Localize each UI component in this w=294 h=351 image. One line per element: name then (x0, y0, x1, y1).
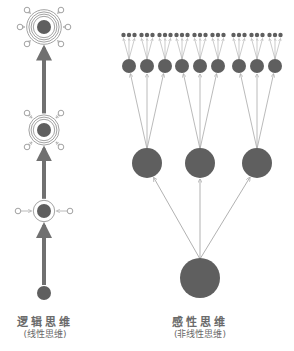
leaf-node (168, 33, 172, 37)
node-circle (37, 123, 51, 137)
leaf-node (273, 33, 277, 37)
leaf-arrow (275, 39, 281, 59)
leaf-arrow (124, 39, 130, 59)
leaf-arrow (234, 39, 240, 59)
mid-node (132, 148, 162, 178)
leaf-arrow (165, 39, 171, 59)
root-node (180, 258, 220, 298)
small-node (175, 59, 189, 73)
input-node (24, 7, 30, 13)
leaf-node (157, 33, 161, 37)
leaf-arrow (213, 39, 219, 59)
leaf-node (198, 33, 202, 37)
small-node (232, 59, 246, 73)
node-circle (37, 286, 51, 300)
linear-node (37, 286, 51, 300)
nonlinear-thinking-diagram (121, 33, 282, 298)
leaf-arrow (177, 39, 183, 59)
branch-arrow (240, 74, 257, 149)
input-node (58, 110, 64, 116)
input-arrow (29, 142, 32, 145)
input-node (17, 24, 23, 30)
input-node (67, 208, 73, 214)
small-node (158, 59, 172, 73)
leaf-node (249, 33, 253, 37)
input-arrow (29, 115, 32, 118)
leaf-node (150, 33, 154, 37)
leaf-arrow (129, 39, 135, 59)
input-arrow (29, 41, 30, 42)
small-node (193, 59, 207, 73)
branch-arrow (154, 178, 200, 259)
linear-node (15, 200, 73, 221)
linear-thinking-diagram (15, 7, 73, 300)
branch-arrow (147, 74, 164, 149)
leaf-node (237, 33, 241, 37)
leaf-node (139, 33, 143, 37)
leaf-node (132, 33, 136, 37)
leaf-arrow (252, 39, 258, 59)
leaf-node (216, 33, 220, 37)
leaf-arrow (218, 39, 224, 59)
leaf-node (203, 33, 207, 37)
input-arrow (58, 12, 59, 13)
linear-node (24, 110, 64, 150)
leaf-arrow (195, 39, 201, 59)
leaf-node (174, 33, 178, 37)
linear-thinking-subtitle: (线性思维) (4, 327, 86, 340)
leaf-arrow (142, 39, 148, 59)
leaf-arrow (200, 39, 206, 59)
input-node (65, 24, 71, 30)
leaf-node (210, 33, 214, 37)
input-arrow (56, 115, 59, 118)
leaf-node (163, 33, 167, 37)
leaf-node (267, 33, 271, 37)
mid-node (242, 148, 272, 178)
small-node (122, 59, 136, 73)
nonlinear-thinking-subtitle: (非线性思维) (158, 327, 242, 340)
leaf-node (221, 33, 225, 37)
leaf-arrow (270, 39, 276, 59)
node-circle (37, 20, 51, 34)
small-node (268, 59, 282, 73)
input-arrow (58, 41, 59, 42)
thinking-diagram (0, 0, 294, 351)
input-node (58, 144, 64, 150)
input-node (24, 41, 30, 47)
leaf-arrow (257, 39, 263, 59)
leaf-arrow (239, 39, 245, 59)
leaf-arrow (160, 39, 166, 59)
leaf-node (121, 33, 125, 37)
leaf-node (180, 33, 184, 37)
small-node (250, 59, 264, 73)
leaf-node (255, 33, 259, 37)
branch-arrow (257, 74, 274, 149)
input-node (24, 110, 30, 116)
input-arrow (29, 12, 30, 13)
leaf-arrow (147, 39, 153, 59)
leaf-node (242, 33, 246, 37)
leaf-node (145, 33, 149, 37)
branch-arrow (200, 74, 217, 149)
node-circle (37, 204, 51, 218)
input-node (15, 208, 21, 214)
branch-arrow (200, 177, 250, 259)
branch-arrow (130, 74, 147, 149)
leaf-node (278, 33, 282, 37)
small-node (211, 59, 225, 73)
mid-node (185, 148, 215, 178)
leaf-node (260, 33, 264, 37)
leaf-node (127, 33, 131, 37)
input-arrow (56, 142, 59, 145)
leaf-node (192, 33, 196, 37)
leaf-node (231, 33, 235, 37)
input-node (58, 7, 64, 13)
leaf-arrow (182, 39, 188, 59)
linear-node (17, 7, 71, 47)
input-node (58, 41, 64, 47)
small-node (140, 59, 154, 73)
branch-arrow (183, 74, 200, 149)
leaf-node (185, 33, 189, 37)
input-node (24, 144, 30, 150)
